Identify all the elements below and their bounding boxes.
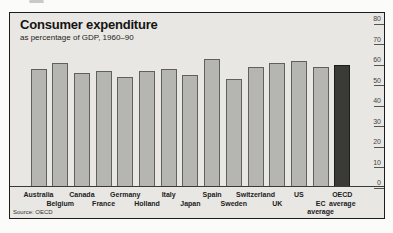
y-tick-label-40: 40 [373, 97, 381, 104]
y-tick-70 [374, 44, 384, 45]
x-label-oecd-line2: average [312, 200, 372, 207]
y-tick-50 [374, 85, 384, 86]
y-tick-10 [374, 167, 384, 168]
y-tick-60 [374, 65, 384, 66]
bar-france [96, 71, 112, 186]
y-tick-label-30: 30 [373, 118, 381, 125]
y-tick-0 [374, 188, 384, 189]
bar-canada [74, 73, 90, 186]
y-tick-label-10: 10 [373, 159, 381, 166]
y-tick-40 [374, 106, 384, 107]
bar-ec-average [313, 67, 329, 186]
bar-belgium [52, 63, 68, 186]
y-tick-label-80: 80 [373, 15, 381, 22]
bar-spain [204, 59, 220, 186]
x-label-oecd: OECD [312, 191, 372, 198]
y-tick-30 [374, 126, 384, 127]
bar-germany [117, 77, 133, 186]
bar-switzerland [248, 67, 264, 186]
source-note: Source: OECD [13, 209, 53, 215]
bar-holland [139, 71, 155, 186]
x-axis-line [10, 186, 384, 187]
y-tick-label-60: 60 [373, 56, 381, 63]
y-tick-label-0: 0 [377, 179, 381, 186]
plot-area: 01020304050607080 [10, 13, 384, 218]
bar-japan [182, 75, 198, 186]
bar-oecd-average [334, 65, 350, 186]
y-tick-label-50: 50 [373, 77, 381, 84]
bar-us [291, 61, 307, 186]
bar-sweden [226, 79, 242, 186]
bar-italy [161, 69, 177, 186]
bar-uk [269, 63, 285, 186]
x-label-ec-line2: average [291, 208, 351, 215]
bar-australia [31, 69, 47, 186]
y-tick-label-20: 20 [373, 138, 381, 145]
y-tick-label-70: 70 [373, 36, 381, 43]
y-tick-80 [374, 24, 384, 25]
y-tick-20 [374, 147, 384, 148]
page-artifact [29, 0, 44, 3]
chart-frame: Consumer expenditure as percentage of GD… [9, 12, 385, 219]
